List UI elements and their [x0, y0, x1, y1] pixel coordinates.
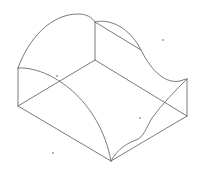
stray-dot-4 — [56, 75, 58, 77]
stray-dot-1 — [162, 39, 164, 41]
top-right-diagonal — [95, 22, 141, 50]
stray-dot-2 — [139, 117, 141, 119]
base-back-right-edge — [95, 60, 187, 116]
edges-group — [18, 14, 187, 161]
base-left-back-edge — [18, 60, 95, 106]
isometric-wireframe-solid — [0, 0, 203, 173]
stray-dot-3 — [52, 152, 54, 154]
base-left-front-edge — [18, 106, 111, 161]
front-right-s-curve — [111, 79, 187, 161]
top-back-arc — [18, 14, 95, 68]
wireframe-diagram-canvas — [0, 0, 203, 173]
